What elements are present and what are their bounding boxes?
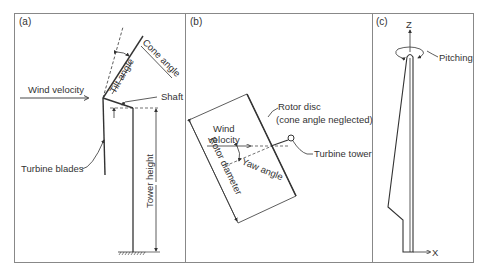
- x-axis-label: X: [432, 247, 439, 258]
- tower-height-label: Tower height: [144, 154, 155, 208]
- blade-profile: [388, 55, 413, 253]
- pitching-arrow-right: [418, 49, 424, 58]
- panel-a: (a) Cone angle Tilt angle Wind velocity …: [19, 16, 184, 255]
- shaft-label: Shaft: [161, 91, 184, 102]
- turbine-tower-symbol: [288, 135, 294, 141]
- cone-angle-arc: [117, 52, 129, 56]
- turbine-tower-leader: [293, 141, 313, 154]
- shaft: [103, 98, 133, 108]
- velocity-label: velocity: [208, 134, 240, 145]
- panel-b-tag: (b): [190, 16, 202, 27]
- turbine-tower-label: Turbine tower: [314, 148, 372, 159]
- yaw-angle-arc: [237, 146, 240, 161]
- shaft-leader: [122, 97, 157, 105]
- figure-canvas: (a) Cone angle Tilt angle Wind velocity …: [0, 0, 487, 276]
- rotor-disc-label: Rotor disc: [278, 101, 321, 112]
- ground-hatch: [119, 252, 145, 255]
- wind-label: Wind: [213, 123, 235, 134]
- panel-c: (c) Z Pitching X: [376, 16, 473, 258]
- panel-b: (b) Rotor diameter Rotor disc (cone angl…: [189, 16, 373, 223]
- pitching-leader: [427, 51, 438, 57]
- wind-velocity-label: Wind velocity: [28, 84, 84, 95]
- z-axis-label: Z: [406, 19, 412, 30]
- pitching-label: Pitching: [439, 52, 473, 63]
- panel-c-tag: (c): [376, 16, 388, 27]
- lower-blade: [103, 98, 105, 175]
- rotor-disc-note: (cone angle neglected): [276, 114, 373, 125]
- nacelle-shaft: [271, 140, 288, 146]
- panel-frame: [15, 14, 474, 263]
- tilt-angle-label: Tilt angle: [107, 56, 136, 95]
- panel-a-tag: (a): [19, 16, 31, 27]
- turbine-blades-label: Turbine blades: [21, 163, 84, 174]
- wind-turbine-diagram: (a) Cone angle Tilt angle Wind velocity …: [0, 0, 487, 276]
- cone-angle-label: Cone angle: [141, 37, 183, 79]
- turbine-blades-leader: [82, 140, 104, 169]
